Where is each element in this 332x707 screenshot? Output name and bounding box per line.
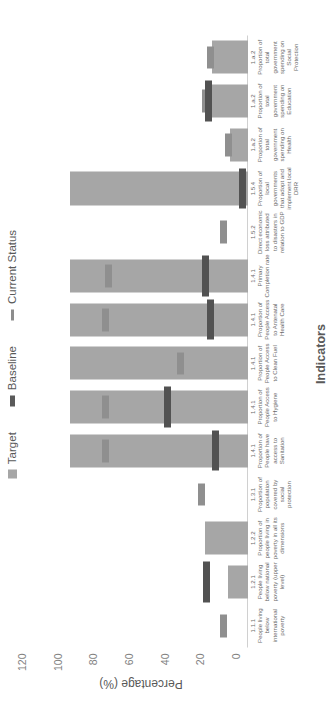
bar-group [34,210,248,254]
marker-current-status [220,220,227,243]
y-axis-tick-100: 100 [52,653,64,671]
marker-current-status [102,439,109,462]
category-label: 1.a.2Proportion of total government spen… [249,35,299,79]
category-label: 1.5.2Direct economic loss attributed to … [249,210,285,254]
marker-baseline [164,387,171,427]
category-code: 1.2.2 [249,516,256,560]
legend-label-baseline: Baseline [6,346,18,390]
category-code: 1.4.1 [249,428,256,472]
category-code: 1.4.1 [249,254,256,298]
bar-target [212,40,248,73]
marker-current-status [102,308,109,331]
category-code: 1.3.1 [249,472,256,516]
category-text: Proportion of people living in poverty i… [256,517,285,559]
marker-baseline [212,430,219,470]
category-label: 1.4.1Proportion of People Access to Clea… [249,341,278,385]
legend-swatch-baseline-icon [10,395,15,406]
bar-group [34,603,248,647]
bar-target [70,434,248,467]
x-axis-title: Indicators [314,0,328,707]
bar-group [34,341,248,385]
category-code: 1.5.4 [249,166,256,210]
category-label: 1.1.1People living below international p… [249,603,285,647]
y-axis-tick-120: 120 [16,653,28,671]
marker-baseline [202,255,209,295]
bar-group [34,516,248,560]
bar-group [34,472,248,516]
bar-target [230,128,248,161]
category-text: People living below international povert… [256,608,285,643]
category-code: 1.4.1 [249,341,256,385]
marker-baseline [203,561,210,601]
marker-current-status [102,395,109,418]
category-text: Proportion of People Access to Hygiene [256,387,277,427]
legend-swatch-target-icon [8,469,17,478]
bar-group [34,254,248,298]
y-axis-tick-60: 60 [123,653,135,665]
category-axis: 1.1.1People living below international p… [249,35,313,647]
category-code: 1.a.2 [249,122,256,166]
category-label: 1.4.1Proportion of People have access to… [249,428,285,472]
y-axis-title: Percentage (%) [51,676,231,690]
y-axis-tick-20: 20 [194,653,206,665]
bar-target [70,346,248,379]
category-code: 1.5.2 [249,210,256,254]
bar-group [34,385,248,429]
bar-group [34,297,248,341]
marker-current-status [105,264,112,287]
legend-item-target: Target [6,432,18,478]
category-code: 1.a.2 [249,35,256,79]
category-label: 1.4.1Proportion of People Access to Hygi… [249,385,278,429]
value-axis: Percentage (%) 020406080100120 [34,647,248,707]
category-text: Proportion of People Access to Clean Fue… [256,343,277,383]
marker-current-status [198,483,205,506]
bar-group [34,122,248,166]
category-label: 1.5.4Proportion of local governments tha… [249,166,299,210]
category-text: Primary Completion rate [256,254,270,297]
category-text: Proportion of local governments that ado… [256,167,299,209]
marker-current-status [177,352,184,375]
bar-target [70,259,248,292]
category-label: 1.a.2Proportion of total government spen… [249,79,292,123]
y-axis-tick-40: 40 [159,653,171,665]
bar-group [34,428,248,472]
category-text: Proportion of total government spending … [256,83,292,118]
plot-area [34,35,248,647]
marker-baseline [239,168,246,208]
category-text: Direct economic loss attributed to disas… [256,210,285,254]
legend-label-target: Target [6,432,18,464]
bar-target [70,303,248,336]
category-code: 1.4.1 [249,385,256,429]
bar-target [70,390,248,423]
bar-target [70,171,248,204]
marker-baseline [205,81,212,121]
category-label: 1.4.1Proportion of People Access to Ante… [249,297,285,341]
bar-group [34,560,248,604]
marker-current-status [207,46,214,69]
chart-legend: Target Baseline Current Status [6,0,18,707]
bar-group [34,35,248,79]
category-label: 1.2.1People living below national povert… [249,560,285,604]
bar-target [211,84,248,117]
legend-item-baseline: Baseline [6,346,18,406]
category-code: 1.4.1 [249,297,256,341]
chart-rotation-wrapper: Target Baseline Current Status Percentag… [0,0,332,707]
category-text: Proportion of total government spending … [256,39,299,74]
y-axis-tick-0: 0 [230,653,242,659]
legend-item-current-status: Current Status [6,229,18,319]
bar-group [34,166,248,210]
category-label: 1.4.1Primary Completion rate [249,254,271,298]
category-text: Proportion of population covered by soci… [256,477,292,512]
category-text: Proportion of People have access to Sani… [256,433,285,468]
bar-chart-figure: Target Baseline Current Status Percentag… [0,0,332,707]
category-code: 1.2.1 [249,560,256,604]
category-text: Proportion of total government spending … [256,127,292,162]
category-text: Proportion of People Access to Antenatal… [256,299,285,339]
category-text: People living below national poverty (up… [256,562,285,601]
bar-group [34,79,248,123]
bar-target [228,565,248,598]
category-label: 1.3.1Proportion of population covered by… [249,472,292,516]
y-axis-tick-80: 80 [87,653,99,665]
marker-current-status [225,133,232,156]
marker-baseline [207,299,214,339]
